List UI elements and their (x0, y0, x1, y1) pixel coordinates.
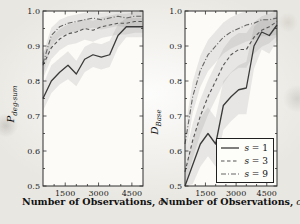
y-axis-label-right: DBase (149, 109, 163, 134)
y-axis-label-left: Pdeg-sum (5, 86, 19, 123)
y-tick-label: 0.9 (27, 42, 40, 51)
y-tick-label: 0.5 (169, 182, 182, 191)
legend-line-sample (221, 157, 239, 165)
legend: s = 1s = 3s = 9 (216, 138, 274, 183)
y-axis-variable-right: D (149, 127, 160, 135)
y-axis-subscript-left: deg-sum (11, 86, 19, 116)
y-axis-variable-left: P (5, 116, 16, 123)
y-tick-label: 0.7 (169, 112, 182, 121)
legend-row: s = 1 (221, 142, 268, 154)
y-tick-label: 0.8 (27, 77, 40, 86)
legend-label: s = 3 (244, 156, 268, 166)
y-tick-label: 0.7 (27, 112, 40, 121)
y-tick-label: 0.8 (169, 77, 182, 86)
y-tick-label: 0.6 (169, 147, 182, 156)
x-axis-label-right: Number of Observations,o (151, 196, 300, 207)
x-axis-label-left: Number of Observations,o (13, 196, 173, 207)
y-tick-label: 0.6 (27, 147, 40, 156)
legend-row: s = 9 (221, 168, 268, 180)
y-axis-subscript-right: Base (155, 109, 163, 126)
y-tick-label: 0.9 (169, 42, 182, 51)
y-tick-label: 1.0 (169, 7, 182, 16)
legend-line-sample (221, 144, 239, 152)
left-plot-canvas: 1500300045000.50.60.70.80.91.0 (18, 4, 148, 200)
legend-row: s = 3 (221, 155, 268, 167)
y-tick-label: 1.0 (27, 7, 40, 16)
y-tick-label: 0.5 (27, 182, 40, 191)
legend-line-sample (221, 170, 239, 178)
legend-label: s = 1 (244, 143, 268, 153)
figure: 1500300045000.50.60.70.80.91.0 150030004… (0, 0, 300, 224)
legend-label: s = 9 (244, 169, 268, 179)
